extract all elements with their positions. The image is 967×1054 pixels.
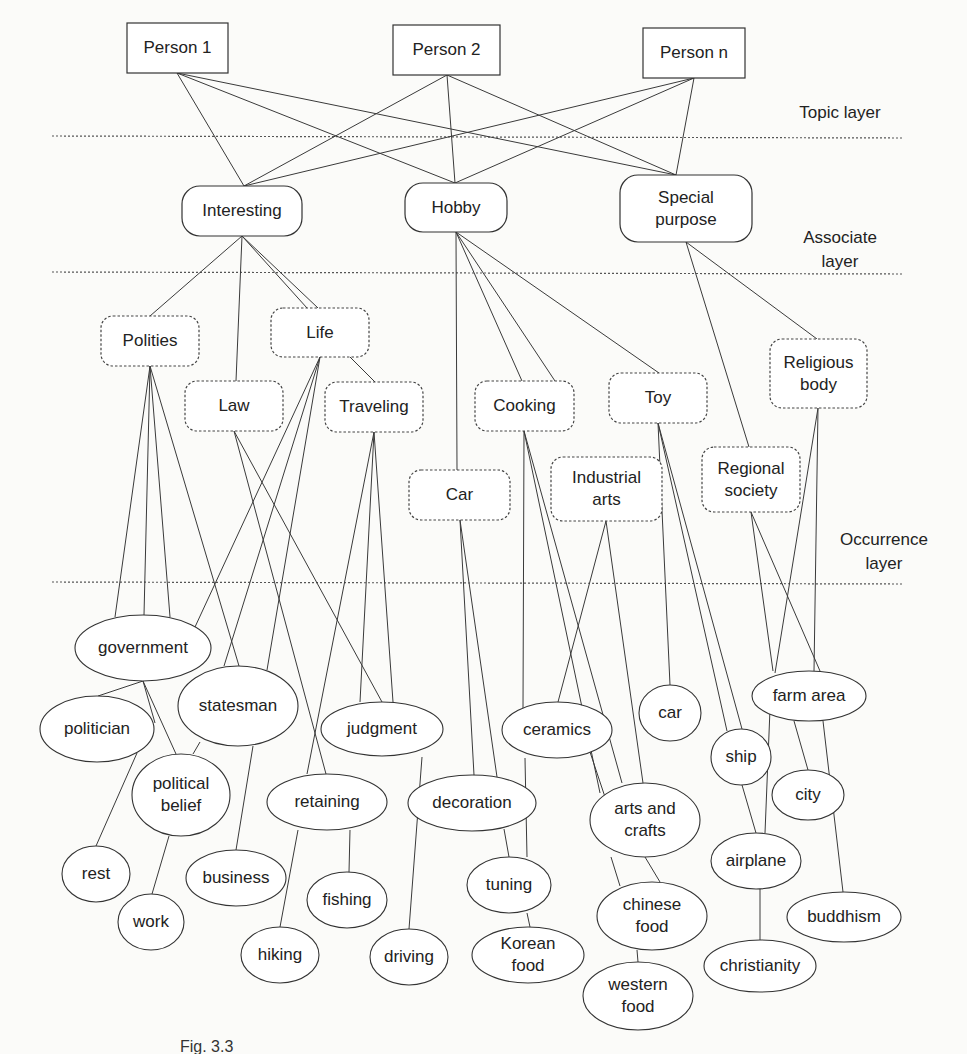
term-node-christianity: christianity xyxy=(704,940,816,992)
term-label: ship xyxy=(725,747,756,766)
category-label: arts xyxy=(592,490,620,509)
topic-node-hobby: Hobby xyxy=(405,183,507,232)
term-label: christianity xyxy=(720,956,801,975)
term-node-farm_area: farm area xyxy=(752,671,866,721)
topic-nodes: InterestingHobbySpecialpurpose xyxy=(182,175,752,242)
edge xyxy=(611,857,620,886)
term-node-airplane: airplane xyxy=(711,833,801,889)
category-node-polities: Polities xyxy=(101,316,199,366)
term-ellipse xyxy=(132,754,230,836)
term-node-judgment: judgment xyxy=(321,702,443,756)
term-node-hiking: hiking xyxy=(241,927,319,983)
edge xyxy=(98,681,143,696)
term-label: government xyxy=(98,638,188,657)
term-ellipse xyxy=(590,783,700,857)
category-label: Religious xyxy=(784,353,854,372)
category-label: Regional xyxy=(717,459,784,478)
category-label: Toy xyxy=(645,388,672,407)
edge xyxy=(645,857,660,882)
edge xyxy=(374,432,393,702)
layer-labels: Topic layerAssociatelayerOccurrencelayer xyxy=(799,103,928,573)
edge xyxy=(460,520,497,777)
term-label: business xyxy=(202,868,269,887)
term-node-korean_food: Koreanfood xyxy=(472,927,584,983)
term-node-arts_crafts: arts andcrafts xyxy=(590,783,700,857)
term-node-political_belief: politicalbelief xyxy=(132,754,230,836)
associate-layer-separator xyxy=(52,272,902,274)
term-label: fishing xyxy=(322,890,371,909)
occurrence-layer-separator xyxy=(52,582,902,584)
edge xyxy=(456,232,457,470)
term-label: judgment xyxy=(346,719,417,738)
term-label: retaining xyxy=(294,792,359,811)
term-node-retaining: retaining xyxy=(267,774,387,830)
term-label: hiking xyxy=(258,945,302,964)
term-node-ceramics: ceramics xyxy=(502,702,612,758)
category-label: Traveling xyxy=(339,397,408,416)
category-box xyxy=(770,339,867,408)
edge xyxy=(177,73,676,175)
edge xyxy=(234,431,382,702)
term-node-ship: ship xyxy=(711,729,771,785)
edge xyxy=(409,757,422,929)
term-node-statesman: statesman xyxy=(178,666,298,746)
term-label: western xyxy=(607,975,668,994)
edge xyxy=(350,357,375,382)
term-label: ceramics xyxy=(523,720,591,739)
occurrence-layer-label: Occurrence xyxy=(840,530,928,549)
occurrence-layer-label: layer xyxy=(866,554,903,573)
term-node-driving: driving xyxy=(370,929,448,985)
term-node-city: city xyxy=(772,770,844,820)
topic-node-interesting: Interesting xyxy=(182,186,302,236)
term-node-western_food: westernfood xyxy=(583,962,693,1030)
term-label: food xyxy=(635,917,668,936)
edge xyxy=(686,242,817,339)
term-node-rest: rest xyxy=(62,846,130,902)
category-label: society xyxy=(725,481,778,500)
category-node-law: Law xyxy=(185,381,283,431)
topic-node-special: Specialpurpose xyxy=(620,175,752,242)
edge xyxy=(244,78,694,186)
term-node-politician: politician xyxy=(40,696,154,762)
person-nodes: Person 1Person 2Person n xyxy=(127,23,745,78)
term-label: food xyxy=(511,956,544,975)
term-ellipse xyxy=(597,882,707,950)
category-label: Industrial xyxy=(572,468,641,487)
edge xyxy=(523,431,524,708)
term-node-work: work xyxy=(118,894,184,950)
category-node-religious: Religiousbody xyxy=(770,339,867,408)
term-node-business: business xyxy=(186,850,286,906)
edge xyxy=(814,408,818,671)
category-node-traveling: Traveling xyxy=(325,382,423,432)
person-node-pn: Person n xyxy=(643,28,745,78)
edge xyxy=(152,836,169,894)
category-box xyxy=(702,447,800,512)
term-label: city xyxy=(795,785,821,804)
topic-label: Hobby xyxy=(431,198,481,217)
term-node-buddhism: buddhism xyxy=(787,892,901,942)
category-label: Polities xyxy=(123,331,178,350)
category-label: Law xyxy=(218,396,250,415)
diagram-canvas: Person 1Person 2Person n InterestingHobb… xyxy=(0,0,967,1054)
topic-layer-label: Topic layer xyxy=(799,103,881,122)
caption-text: Fig. 3.3 xyxy=(180,1038,233,1054)
term-nodes: governmentpoliticianstatesmanpoliticalbe… xyxy=(40,615,901,1030)
term-node-fishing: fishing xyxy=(307,872,387,928)
person-node-p2: Person 2 xyxy=(393,25,500,75)
edge xyxy=(236,746,253,850)
term-label: statesman xyxy=(199,696,277,715)
term-label: chinese xyxy=(623,895,682,914)
topic-box xyxy=(620,175,752,242)
category-label: body xyxy=(800,375,837,394)
term-label: food xyxy=(621,997,654,1016)
layered-topic-diagram: Person 1Person 2Person n InterestingHobb… xyxy=(0,0,967,1054)
category-node-life: Life xyxy=(271,308,369,357)
edge xyxy=(794,721,808,770)
term-label: farm area xyxy=(773,686,846,705)
term-label: political xyxy=(153,774,210,793)
term-label: work xyxy=(132,912,169,931)
edge xyxy=(676,78,694,175)
category-label: Life xyxy=(306,323,333,342)
edge xyxy=(456,232,555,381)
category-node-toy: Toy xyxy=(609,373,707,423)
